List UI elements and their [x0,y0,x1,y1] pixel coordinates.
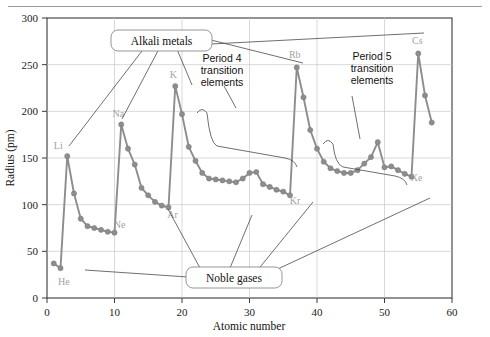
data-point [341,170,346,175]
element-label-cs: Cs [412,35,423,46]
period-4-annotation-line2: transition [201,64,244,76]
data-point [260,182,265,187]
noble-gases-callout-label: Noble gases [206,272,262,285]
data-point [429,120,434,125]
data-point [65,154,70,159]
data-point [58,266,63,271]
x-tick-label: 20 [177,306,189,318]
period-4-annotation: Period 4 transition elements [201,52,244,88]
data-point [213,177,218,182]
element-label-rb: Rb [289,49,301,60]
data-point [308,127,313,132]
data-point [362,161,367,166]
data-point [328,166,333,171]
period-4-annotation-line1: Period 4 [202,52,241,64]
data-point [335,168,340,173]
x-tick-label: 50 [379,306,391,318]
data-point [146,193,151,198]
data-point [274,187,279,192]
data-point [227,179,232,184]
y-tick-label: 150 [22,152,39,164]
alkali-metals-callout: Alkali metals [111,30,212,51]
data-point [139,185,144,190]
noble-gases-callout: Noble gases [186,267,282,288]
x-tick-label: 10 [109,306,121,318]
data-point [193,158,198,163]
alkali-metals-callout-label: Alkali metals [131,35,193,47]
y-tick-label: 100 [22,199,39,211]
data-point [301,95,306,100]
data-point [389,164,394,169]
data-point [254,169,259,174]
data-point [267,184,272,189]
data-point [240,176,245,181]
data-point [92,225,97,230]
data-point [321,159,326,164]
element-label-he: He [58,276,70,287]
data-point [247,170,252,175]
figure-root: 050100150200250300 0102030405060 HeLiNeN… [0,0,490,337]
y-tick-label: 200 [22,105,39,117]
data-point [281,189,286,194]
period-4-annotation-line3: elements [201,76,244,88]
element-label-xe: Xe [411,172,423,183]
data-point [233,180,238,185]
data-point [159,203,164,208]
data-point [220,178,225,183]
data-point [368,154,373,159]
data-point [314,146,319,151]
x-tick-label: 30 [244,306,256,318]
element-label-kr: Kr [290,195,301,206]
data-point [402,171,407,176]
data-point [78,216,83,221]
data-point [206,176,211,181]
y-tick-label: 0 [33,292,39,304]
y-tick-label: 300 [22,12,39,24]
data-point [382,165,387,170]
x-tick-label: 60 [447,306,459,318]
data-point [416,51,421,56]
x-tick-label: 0 [44,306,50,318]
y-tick-label: 250 [22,59,39,71]
x-axis-title: Atomic number [213,320,286,332]
data-point [119,122,124,127]
data-point [105,229,110,234]
data-point [186,144,191,149]
y-axis-title: Radius (pm) [4,129,17,186]
data-point [71,191,76,196]
data-point [112,230,117,235]
data-point [125,146,130,151]
data-point [395,168,400,173]
element-label-k: K [170,69,178,80]
data-point [375,140,380,145]
data-point [132,162,137,167]
data-point [179,112,184,117]
data-point [98,227,103,232]
element-label-li: Li [54,140,63,151]
radius-vs-atomic-number-chart: 050100150200250300 0102030405060 HeLiNeN… [0,0,490,337]
period-5-annotation: Period 5 transition elements [351,50,394,86]
y-tick-label: 50 [27,245,39,257]
x-axis-ticks: 0102030405060 [44,298,458,318]
x-tick-label: 40 [312,306,324,318]
period-5-annotation-line2: transition [351,62,394,74]
data-point [51,261,56,266]
data-point [294,65,299,70]
element-label-ne: Ne [114,219,126,230]
data-point [422,93,427,98]
data-point [348,170,353,175]
data-point [85,224,90,229]
y-axis-ticks: 050100150200250300 [22,12,48,304]
period-5-annotation-line3: elements [351,74,394,86]
data-point [200,170,205,175]
data-point [173,84,178,89]
period-5-annotation-line1: Period 5 [352,50,391,62]
data-point [152,199,157,204]
